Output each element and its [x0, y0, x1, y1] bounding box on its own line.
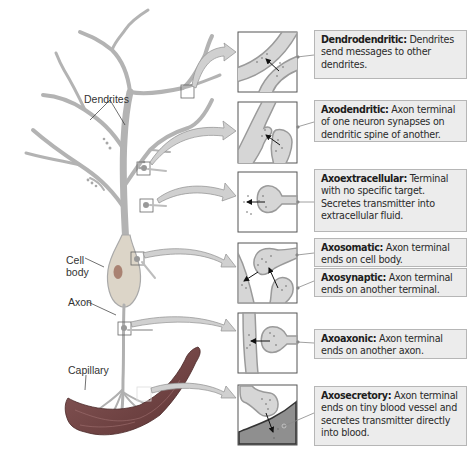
axodendritic-inset: [238, 102, 297, 165]
arrow-3: [157, 183, 236, 203]
cell-body: [107, 235, 140, 307]
axoaxonic-inset: [238, 313, 297, 373]
arrow-1: [192, 43, 236, 88]
axosomatic-axosynaptic-inset: [238, 243, 297, 303]
capillary-label: Capillary: [68, 364, 109, 376]
synapse-name: Axosynaptic:: [321, 272, 386, 283]
nucleus: [114, 265, 123, 279]
cell-body-label-line2: body: [66, 266, 89, 278]
axoextracellular-box: Axoextracellular: Terminal with no speci…: [314, 169, 467, 232]
synapse-name: Axodendritic:: [321, 104, 389, 115]
axodendritic-box: Axodendritic: Axon terminal of one neuro…: [314, 100, 467, 142]
axosynaptic-box: Axosynaptic: Axon terminal ends on anoth…: [314, 268, 467, 297]
axon-label: Axon: [68, 296, 92, 308]
dendrodendritic-inset: [236, 32, 298, 94]
synapse-name: Dendrodendritic:: [321, 34, 407, 45]
arrow-4: [143, 249, 236, 267]
synapse-name: Axosomatic:: [321, 242, 383, 253]
dendrodendritic-box: Dendrodendritic: Dendrites send messages…: [314, 30, 467, 79]
axoextracellular-inset: [238, 172, 297, 232]
dendrites-label: Dendrites: [84, 93, 129, 105]
capillary: [65, 347, 200, 435]
axosomatic-box: Axosomatic: Axon terminal ends on cell b…: [314, 238, 467, 267]
arrow-5: [131, 317, 236, 331]
axosecretory-box: Axosecretory: Axon terminal ends on tiny…: [314, 386, 467, 446]
callout-arrows: [131, 43, 236, 398]
cell-body-label-line1: Cell: [66, 254, 84, 266]
synapse-name: Axosecretory:: [321, 390, 391, 401]
axoaxonic-box: Axoaxonic: Axon terminal ends on another…: [314, 329, 467, 359]
dendrite-tree: [26, 10, 220, 245]
synapse-name: Axoextracellular:: [321, 173, 407, 184]
synapse-name: Axoaxonic:: [321, 333, 376, 344]
axosecretory-inset: [238, 385, 297, 445]
